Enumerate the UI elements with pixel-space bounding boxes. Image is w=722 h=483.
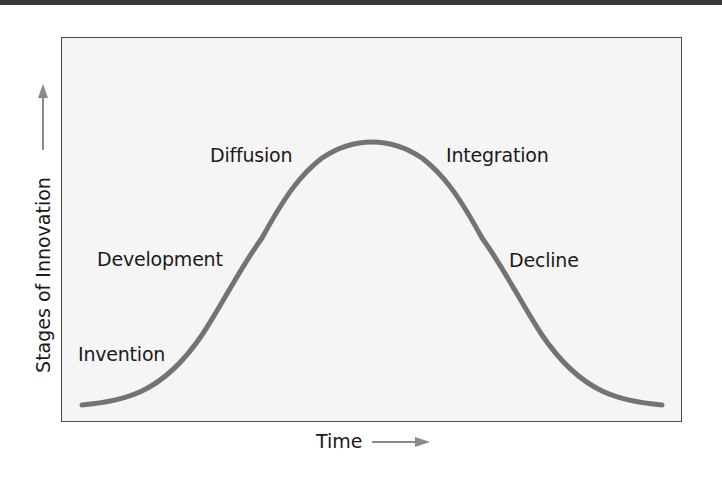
y-axis-label: Stages of Innovation — [34, 177, 53, 373]
stage-label-integration: Integration — [446, 146, 549, 165]
bell-curve-line — [82, 142, 662, 405]
innovation-curve — [0, 0, 722, 483]
x-axis-label: Time — [316, 432, 363, 451]
stage-label-development: Development — [97, 250, 223, 269]
x-axis-arrow-icon — [372, 437, 430, 447]
stage-label-invention: Invention — [78, 345, 165, 364]
y-axis-arrow-icon — [38, 84, 48, 150]
stage-label-diffusion: Diffusion — [210, 146, 292, 165]
stage-label-decline: Decline — [509, 251, 579, 270]
